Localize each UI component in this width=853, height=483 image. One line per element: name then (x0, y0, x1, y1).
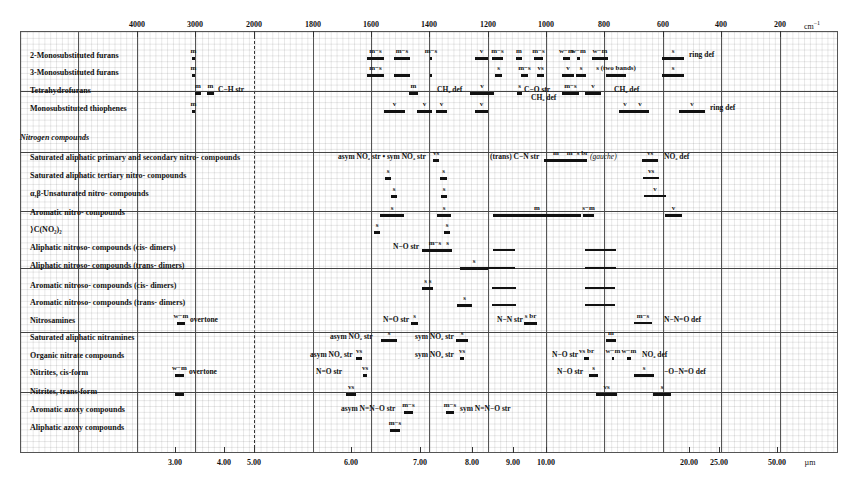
intensity-label: m−s (429, 240, 442, 247)
absorption-band (606, 339, 616, 342)
intensity-label: s (661, 384, 664, 391)
assignment-note: overtone (190, 316, 218, 324)
intensity-label: m−s (491, 48, 504, 55)
assignment-note: asym NO₂ str (310, 351, 353, 359)
intensity-label: m−s (564, 83, 577, 90)
intensity-label: s (463, 295, 466, 302)
absorption-band (346, 393, 356, 396)
assignment-note: asym N=N−O str (341, 405, 395, 413)
bottom-axis-tick (420, 447, 421, 453)
top-axis-tick-label: 3000 (187, 20, 203, 29)
assignment-note: CH₂ def (614, 86, 639, 94)
absorption-band (404, 411, 413, 414)
intensity-label: vs (348, 384, 354, 391)
intensity-label: v (638, 101, 642, 108)
absorption-band (493, 214, 581, 217)
compound-class-label: Nitrosamines (30, 316, 75, 325)
intensity-label: w−m (622, 348, 637, 355)
intensity-label: s (393, 186, 396, 193)
absorption-band (612, 357, 614, 360)
absorption-band (384, 110, 405, 113)
absorption-band (356, 357, 362, 360)
bottom-axis-tick-label: 3.00 (168, 458, 182, 467)
ir-correlation-chart: 4000300020001800160014001200100080060040… (0, 0, 853, 483)
intensity-label: w−m (174, 313, 189, 320)
top-axis-tick-label: 1000 (538, 20, 554, 29)
row-separator (20, 211, 838, 212)
assignment-note: N−O str (557, 368, 583, 376)
absorption-band (430, 74, 432, 77)
assignment-note: N−N=O def (664, 316, 701, 324)
top-axis-tick (604, 31, 605, 37)
intensity-label: s (592, 365, 595, 372)
top-axis-tick-label: 4000 (129, 20, 145, 29)
top-axis-tick-label: 600 (657, 20, 669, 29)
bottom-axis-tick (351, 447, 352, 453)
intensity-label: s (580, 65, 583, 72)
compound-class-label: Saturated aliphatic tertiary nitro- comp… (30, 171, 186, 180)
assignment-note: CH₂ def (531, 94, 556, 102)
compound-class-label: Aromatic nitroso- compounds (trans- dime… (30, 298, 185, 307)
intensity-label: s (518, 83, 521, 90)
top-axis-tick-label: 1200 (480, 20, 496, 29)
absorption-band (492, 287, 516, 289)
top-axis-tick (195, 31, 196, 37)
top-axis-tick (546, 31, 547, 37)
intensity-label: m (208, 83, 214, 90)
assignment-note: overtone (189, 368, 217, 376)
compound-class-label: Aliphatic azoxy compounds (30, 423, 124, 432)
top-axis-tick (488, 31, 489, 37)
bottom-axis-tick (513, 447, 514, 453)
intensity-label: s (672, 48, 675, 55)
absorption-band (585, 304, 615, 306)
absorption-band (444, 231, 450, 234)
absorption-band (568, 159, 587, 162)
absorption-band (380, 214, 404, 217)
intensity-label: vs (362, 365, 368, 372)
intensity-label: m−s (402, 402, 415, 409)
intensity-label: w−m (172, 365, 187, 372)
absorption-band (634, 322, 652, 324)
absorption-band (430, 57, 432, 60)
assignment-note: ring def (710, 104, 735, 112)
bottom-axis-tick (254, 447, 255, 453)
bottom-axis-tick-label: 7.00 (413, 458, 427, 467)
intensity-label: s (two bands) (596, 65, 636, 72)
absorption-band (385, 177, 391, 180)
assignment-note: ring def (689, 51, 714, 59)
absorption-band (470, 92, 494, 95)
assignment-note: (gauche) (590, 153, 617, 161)
absorption-band (644, 195, 666, 197)
intensity-label: s (391, 205, 394, 212)
compound-class-label: 2-Monosubstituted furans (30, 51, 119, 60)
intensity-label: m (553, 150, 559, 157)
bottom-axis-tick (777, 447, 778, 453)
intensity-label: w−m (593, 48, 608, 55)
compound-class-label: Monosubstituted thiophenes (30, 104, 127, 113)
intensity-label: s (643, 365, 646, 372)
compound-class-label: ⟩C(NO₂)₂ (30, 224, 62, 234)
intensity-label: v (480, 101, 484, 108)
assignment-note: NO₂ def (664, 153, 689, 161)
absorption-band (563, 57, 570, 60)
absorption-band (367, 57, 384, 60)
compound-class-label: Tetrahydrofurans (30, 86, 91, 95)
assignment-note: (trans) C−N str (490, 153, 539, 161)
absorption-band (175, 393, 184, 396)
row-separator (20, 392, 838, 393)
intensity-label: v (423, 101, 427, 108)
absorption-band (583, 214, 594, 217)
compound-class-label: Saturated aliphatic nitramines (30, 333, 134, 342)
major-gridline (780, 31, 781, 453)
absorption-band (460, 267, 488, 270)
top-axis-tick-label: 2000 (246, 20, 262, 29)
compound-class-label: Organic nitrate compounds (30, 351, 124, 360)
absorption-band (534, 57, 543, 60)
row-separator (20, 91, 838, 92)
intensity-label: m−s (444, 402, 457, 409)
absorption-band (662, 57, 684, 60)
intensity-label: v (672, 205, 676, 212)
absorption-band (576, 74, 586, 77)
assignment-note: N=O str (316, 368, 342, 376)
absorption-band (562, 74, 574, 77)
